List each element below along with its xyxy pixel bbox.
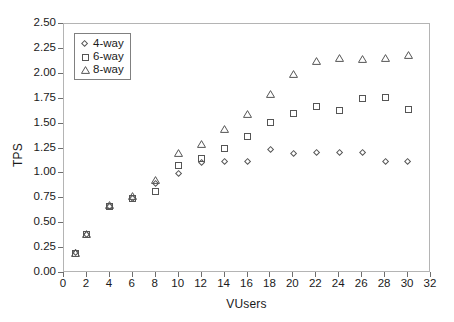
triangle-marker-icon xyxy=(81,66,90,74)
square-marker-icon xyxy=(382,94,389,101)
x-axis-tick-mark xyxy=(430,272,431,277)
y-axis-tick-label: 0.00 xyxy=(14,266,56,278)
diamond-marker-icon xyxy=(152,180,159,187)
square-marker-icon xyxy=(244,133,251,140)
legend-item: 8-way xyxy=(79,63,124,76)
legend-item: 6-way xyxy=(79,50,124,63)
legend-item-label: 8-way xyxy=(93,64,124,76)
square-marker-icon xyxy=(79,50,92,63)
triangle-marker-icon xyxy=(197,140,206,148)
diamond-marker-icon xyxy=(198,159,205,166)
square-marker-icon xyxy=(359,95,366,102)
y-axis-tick-label: 0.25 xyxy=(14,241,56,253)
square-marker-icon xyxy=(221,145,228,152)
y-axis-tick-label: 0.50 xyxy=(14,216,56,228)
x-axis-tick-mark xyxy=(315,272,316,277)
triangle-marker-icon xyxy=(105,201,114,209)
x-axis-tick-mark xyxy=(338,272,339,277)
x-axis-tick-mark xyxy=(269,272,270,277)
x-axis-tick-mark xyxy=(109,272,110,277)
diamond-marker-icon xyxy=(381,158,388,165)
x-axis-tick-mark xyxy=(384,272,385,277)
triangle-marker-icon xyxy=(128,192,137,200)
x-axis-tick-label: 22 xyxy=(300,278,330,290)
x-axis-tick-mark xyxy=(224,272,225,277)
triangle-marker-icon xyxy=(404,51,413,59)
triangle-marker-icon xyxy=(335,54,344,62)
x-axis-title: VUsers xyxy=(63,297,430,311)
triangle-marker-icon xyxy=(266,90,275,98)
x-axis-tick-label: 26 xyxy=(346,278,376,290)
y-axis-tick-label: 2.50 xyxy=(14,17,56,29)
x-axis-tick-mark xyxy=(132,272,133,277)
x-axis-tick-mark xyxy=(155,272,156,277)
x-axis-tick-label: 2 xyxy=(71,278,101,290)
x-axis-tick-mark xyxy=(86,272,87,277)
square-marker-icon xyxy=(290,110,297,117)
legend-item-label: 4-way xyxy=(93,38,124,50)
x-axis-tick-label: 18 xyxy=(254,278,284,290)
diamond-marker-icon xyxy=(81,40,88,47)
square-marker-icon xyxy=(129,195,136,202)
triangle-marker-icon xyxy=(174,149,183,157)
diamond-marker-icon xyxy=(359,149,366,156)
x-axis-tick-mark xyxy=(201,272,202,277)
legend-item: 4-way xyxy=(79,37,124,50)
square-marker-icon xyxy=(336,107,343,114)
scatter-chart: 0.000.250.500.751.001.251.501.752.002.25… xyxy=(0,0,454,322)
diamond-marker-icon xyxy=(290,150,297,157)
diamond-marker-icon xyxy=(221,158,228,165)
x-axis-tick-mark xyxy=(292,272,293,277)
triangle-marker-icon xyxy=(289,70,298,78)
x-axis-tick-label: 12 xyxy=(186,278,216,290)
diamond-marker-icon xyxy=(106,203,113,210)
square-marker-icon xyxy=(313,103,320,110)
square-marker-icon xyxy=(175,162,182,169)
y-axis-tick-label: 0.75 xyxy=(14,192,56,204)
square-marker-icon xyxy=(405,106,412,113)
square-marker-icon xyxy=(72,250,79,257)
diamond-marker-icon xyxy=(72,249,79,256)
x-axis-tick-label: 0 xyxy=(48,278,78,290)
triangle-marker-icon xyxy=(79,63,92,76)
diamond-marker-icon xyxy=(404,158,411,165)
x-axis-tick-mark xyxy=(247,272,248,277)
square-marker-icon xyxy=(82,54,89,61)
x-axis-tick-mark xyxy=(63,272,64,277)
triangle-marker-icon xyxy=(71,249,80,257)
legend: 4-way6-way8-way xyxy=(74,33,131,80)
y-axis-tick-label: 2.25 xyxy=(14,42,56,54)
triangle-marker-icon xyxy=(82,230,91,238)
x-axis-tick-label: 30 xyxy=(392,278,422,290)
y-axis-tick-label: 1.75 xyxy=(14,92,56,104)
square-marker-icon xyxy=(198,155,205,162)
diamond-marker-icon xyxy=(313,149,320,156)
square-marker-icon xyxy=(83,231,90,238)
diamond-marker-icon xyxy=(129,195,136,202)
diamond-marker-icon xyxy=(336,149,343,156)
square-marker-icon xyxy=(106,203,113,210)
triangle-marker-icon xyxy=(381,54,390,62)
x-axis-tick-label: 16 xyxy=(232,278,262,290)
x-axis-tick-label: 4 xyxy=(94,278,124,290)
triangle-marker-icon xyxy=(243,110,252,118)
square-marker-icon xyxy=(267,119,274,126)
square-marker-icon xyxy=(152,188,159,195)
x-axis-tick-mark xyxy=(407,272,408,277)
y-axis-tick-label: 2.00 xyxy=(14,67,56,79)
x-axis-tick-label: 24 xyxy=(323,278,353,290)
triangle-marker-icon xyxy=(220,125,229,133)
diamond-marker-icon xyxy=(175,170,182,177)
x-axis-tick-label: 20 xyxy=(277,278,307,290)
diamond-marker-icon xyxy=(79,37,92,50)
y-axis-tick-mark xyxy=(58,272,63,273)
x-axis-tick-label: 14 xyxy=(209,278,239,290)
x-axis-tick-mark xyxy=(178,272,179,277)
x-axis-tick-label: 32 xyxy=(415,278,445,290)
diamond-marker-icon xyxy=(83,230,90,237)
x-axis-tick-label: 10 xyxy=(163,278,193,290)
legend-item-label: 6-way xyxy=(93,51,124,63)
triangle-marker-icon xyxy=(312,57,321,65)
triangle-marker-icon xyxy=(151,176,160,184)
x-axis-tick-label: 6 xyxy=(117,278,147,290)
